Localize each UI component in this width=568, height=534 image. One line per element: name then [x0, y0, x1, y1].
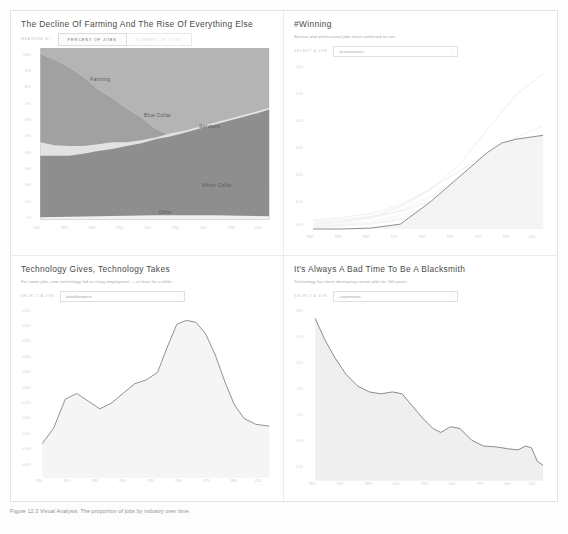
svg-text:1990: 1990 — [230, 479, 237, 483]
blacksmith-x-axis: 18501870 18901910 19301950 19701990 2015 — [308, 482, 535, 485]
svg-text:1990: 1990 — [503, 235, 510, 239]
svg-text:0.0%: 0.0% — [296, 223, 303, 227]
svg-text:1850: 1850 — [35, 479, 42, 483]
winning-job-value: accountants — [339, 49, 363, 54]
blacksmith-select-label: Select A Job — [294, 294, 327, 298]
svg-text:1870: 1870 — [60, 226, 67, 230]
svg-text:1870: 1870 — [335, 235, 342, 239]
farming-measure-label: Measure By — [21, 37, 52, 41]
technology-controls: Select A Job bookkeepers ↕ — [21, 290, 273, 302]
svg-text:2.0%: 2.0% — [296, 361, 303, 365]
svg-text:1930: 1930 — [147, 479, 154, 483]
svg-text:Blue Collar: Blue Collar — [144, 112, 171, 118]
technology-select-label: Select A Job — [21, 294, 54, 298]
svg-text:0.15%: 0.15% — [22, 432, 31, 436]
technology-job-value: bookkeepers — [66, 294, 92, 299]
svg-text:2.5%: 2.5% — [296, 335, 303, 339]
winning-x-axis: 18501870 18901910 19301950 19701990 2015 — [307, 235, 536, 239]
svg-text:0.35%: 0.35% — [22, 370, 31, 374]
svg-text:1890: 1890 — [364, 482, 371, 485]
svg-text:0.1%: 0.1% — [296, 200, 303, 204]
svg-text:1930: 1930 — [421, 482, 428, 485]
svg-text:1950: 1950 — [447, 235, 454, 239]
svg-text:0.0%: 0.0% — [296, 465, 303, 469]
svg-text:1910: 1910 — [392, 482, 399, 485]
svg-text:0.5%: 0.5% — [296, 92, 303, 96]
svg-text:0.6%: 0.6% — [296, 65, 303, 69]
panel-winning: #Winning Service and professional jobs h… — [284, 11, 557, 256]
panel-technology-subtitle: For some jobs, new technology led to ris… — [21, 278, 273, 285]
svg-text:1890: 1890 — [88, 226, 95, 230]
svg-text:1870: 1870 — [63, 479, 70, 483]
winning-job-select[interactable]: accountants ↕ — [333, 46, 458, 57]
svg-text:1950: 1950 — [175, 479, 182, 483]
svg-text:0.2%: 0.2% — [296, 173, 303, 177]
panel-farming: The Decline Of Farming And The Rise Of E… — [11, 11, 284, 256]
panel-blacksmith-title: It's Always A Bad Time To Be A Blacksmit… — [294, 264, 547, 275]
panel-blacksmith: It's Always A Bad Time To Be A Blacksmit… — [284, 256, 557, 501]
dashboard-grid: The Decline Of Farming And The Rise Of E… — [10, 10, 558, 502]
panel-winning-subtitle: Service and professional jobs have conti… — [294, 33, 547, 40]
svg-text:0.05%: 0.05% — [22, 463, 31, 467]
chevron-down-icon: ↕ — [450, 49, 452, 53]
farming-measure-toggle[interactable]: Percent Of Jobs Number Of Jobs — [58, 33, 193, 46]
winning-svg: 0.6%0.5% 0.4%0.3% 0.2%0.1% 0.0% — [294, 60, 547, 243]
toggle-percent-of-jobs[interactable]: Percent Of Jobs — [58, 33, 127, 46]
svg-text:2015: 2015 — [529, 482, 536, 485]
panel-blacksmith-subtitle: Technology has been destroying certain j… — [294, 278, 547, 285]
panel-technology-title: Technology Gives, Technology Takes — [21, 264, 273, 275]
technology-svg: 0.55%0.50% 0.45%0.40% 0.35%0.30% 0.25%0.… — [21, 305, 273, 484]
farming-y-axis: 100%90% 80%70% 60%50% 40%30% 20%10% 0% — [23, 53, 32, 221]
winning-highlight-series — [313, 135, 543, 229]
svg-text:1850: 1850 — [307, 235, 314, 239]
svg-text:1970: 1970 — [475, 235, 482, 239]
blacksmith-highlight-series — [315, 319, 543, 481]
blacksmith-svg: 3.0%2.5% 2.0%1.5% 1.0%0.5% 0.0% — [294, 305, 547, 485]
svg-text:Other: Other — [159, 209, 173, 215]
svg-text:1950: 1950 — [449, 482, 456, 485]
svg-text:1950: 1950 — [172, 226, 179, 230]
panel-winning-title: #Winning — [294, 19, 547, 30]
svg-text:Farming: Farming — [90, 76, 110, 82]
toggle-number-of-jobs[interactable]: Number Of Jobs — [127, 33, 193, 46]
farming-x-axis: 18501870 18901910 19301950 19701990 2015 — [34, 226, 262, 230]
farming-svg: 100%90% 80%70% 60%50% 40%30% 20%10% 0% — [21, 48, 273, 237]
svg-text:1850: 1850 — [34, 226, 41, 230]
svg-text:0%: 0% — [27, 216, 32, 220]
svg-text:90%: 90% — [25, 69, 31, 73]
svg-text:1930: 1930 — [144, 226, 151, 230]
svg-text:1.0%: 1.0% — [296, 413, 303, 417]
svg-text:60%: 60% — [25, 118, 31, 122]
technology-job-select[interactable]: bookkeepers ↕ — [60, 291, 185, 302]
svg-text:1970: 1970 — [200, 226, 207, 230]
svg-text:30%: 30% — [25, 167, 31, 171]
svg-text:0.55%: 0.55% — [22, 309, 31, 313]
svg-text:0.50%: 0.50% — [22, 324, 31, 328]
svg-text:1870: 1870 — [336, 482, 343, 485]
dashboard-page: The Decline Of Farming And The Rise Of E… — [0, 0, 568, 534]
svg-text:2015: 2015 — [529, 235, 536, 239]
blacksmith-job-value: carpenters — [339, 294, 360, 299]
svg-text:0.5%: 0.5% — [296, 439, 303, 443]
technology-area-chart: 0.55%0.50% 0.45%0.40% 0.35%0.30% 0.25%0.… — [21, 305, 273, 484]
svg-text:0.40%: 0.40% — [22, 355, 31, 359]
svg-text:1890: 1890 — [363, 235, 370, 239]
svg-text:1990: 1990 — [228, 226, 235, 230]
blacksmith-y-axis: 3.0%2.5% 2.0%1.5% 1.0%0.5% 0.0% — [296, 309, 303, 469]
svg-text:50%: 50% — [25, 134, 31, 138]
svg-text:1970: 1970 — [203, 479, 210, 483]
svg-text:1910: 1910 — [391, 235, 398, 239]
blacksmith-area-chart: 3.0%2.5% 2.0%1.5% 1.0%0.5% 0.0% — [294, 305, 547, 485]
blacksmith-job-select[interactable]: carpenters ↕ — [333, 291, 458, 302]
svg-text:1990: 1990 — [504, 482, 511, 485]
technology-highlight-series — [42, 320, 269, 478]
farming-controls: Measure By Percent Of Jobs Number Of Job… — [21, 33, 273, 45]
svg-text:0.45%: 0.45% — [22, 340, 31, 344]
svg-text:White Collar: White Collar — [202, 182, 232, 188]
svg-text:0.10%: 0.10% — [22, 447, 31, 451]
svg-text:3.0%: 3.0% — [296, 309, 303, 313]
technology-x-axis: 18501870 18901910 19301950 19701990 2015 — [35, 479, 262, 483]
farming-areas — [40, 48, 269, 219]
panel-technology: Technology Gives, Technology Takes For s… — [11, 256, 284, 501]
svg-text:0.25%: 0.25% — [22, 401, 31, 405]
